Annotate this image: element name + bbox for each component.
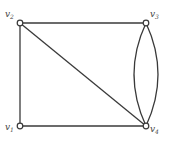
vertex-v1 bbox=[17, 123, 23, 129]
graph-diagram: v1 v2 v3 v4 bbox=[0, 0, 169, 145]
labels: v1 v2 v3 v4 bbox=[5, 9, 159, 135]
vertex-v2 bbox=[17, 20, 23, 26]
edge-v3-v4-left-curve bbox=[134, 23, 146, 126]
vertex-v3 bbox=[143, 20, 149, 26]
vertex-label-v4: v4 bbox=[150, 124, 159, 135]
edge-v3-v4-right-curve bbox=[146, 23, 158, 126]
vertex-v4 bbox=[143, 123, 149, 129]
vertex-label-v1: v1 bbox=[5, 122, 14, 133]
vertex-label-v2: v2 bbox=[5, 9, 14, 20]
edge-v2-v4 bbox=[20, 23, 146, 126]
edges bbox=[20, 23, 158, 126]
vertex-label-v3: v3 bbox=[150, 9, 159, 20]
